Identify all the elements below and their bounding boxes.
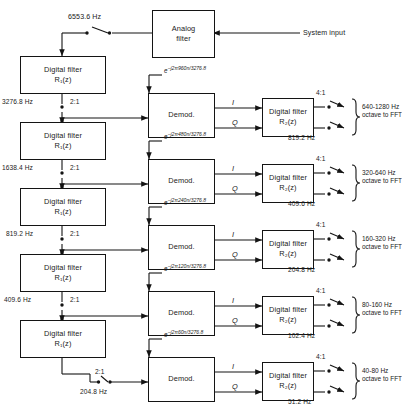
- i-branch-label-stage-4: I: [232, 297, 234, 306]
- analog-filter-line2: filter: [176, 35, 191, 44]
- r2-label-line2: R₂(z): [279, 118, 296, 127]
- r1-label-line1: Digital filter: [44, 66, 82, 75]
- r1-filter-stage-1: Digital filter R₁(z): [20, 56, 106, 94]
- r1-label-line2: R₁(z): [55, 340, 72, 349]
- stage-2-decimation-ratio: 2:1: [70, 164, 79, 172]
- stage-5-output-rate: 51.2 Hz: [288, 398, 311, 406]
- local-oscillator-exponent-stage-3: e−j2π240n/3276.8: [164, 197, 206, 206]
- system-input-label: System input: [303, 29, 345, 37]
- q-branch-label-stage-1: Q: [232, 119, 238, 128]
- r1-filter-stage-2: Digital filter R₁(z): [20, 122, 106, 160]
- stage-5-input-rate: 204.8 Hz: [80, 388, 107, 396]
- stage-1-output-decimation-ratio: 4:1: [316, 89, 325, 97]
- r2-label-line1: Digital filter: [269, 306, 307, 315]
- i-branch-label-stage-1: I: [232, 99, 234, 108]
- i-branch-label-stage-5: I: [232, 363, 234, 372]
- r2-label-line1: Digital filter: [269, 372, 307, 381]
- octave-band-label: 320-640 Hz: [362, 169, 402, 177]
- r2-filter-stage-3: Digital filter R₂(z): [262, 230, 314, 269]
- r1-label-line2: R₁(z): [55, 76, 72, 85]
- r1-filter-stage-3: Digital filter R₁(z): [20, 188, 106, 226]
- octave-band-label: 80-160 Hz: [362, 301, 402, 309]
- octave-band-label: 40-80 Hz: [362, 367, 402, 375]
- top-sample-rate-label: 6553.6 Hz: [68, 13, 101, 21]
- stage-3-decimation-ratio: 2:1: [70, 230, 79, 238]
- demod-label: Demod.: [168, 309, 194, 318]
- q-branch-label-stage-3: Q: [232, 251, 238, 260]
- octave-destination-label: octave to FFT: [362, 309, 402, 317]
- stage-5-output-decimation-ratio: 4:1: [316, 353, 325, 361]
- octave-band-label: 640-1280 Hz: [362, 103, 402, 111]
- local-oscillator-exponent-stage-4: e−j2π120n/3276.8: [164, 263, 206, 272]
- stage-4-decimation-ratio: 2:1: [70, 296, 79, 304]
- r2-label-line2: R₂(z): [279, 184, 296, 193]
- octave-destination-label: octave to FFT: [362, 177, 402, 185]
- stage-2-output-rate: 409.6 Hz: [288, 200, 315, 208]
- octave-destination-label: octave to FFT: [362, 375, 402, 383]
- r1-filter-stage-4: Digital filter R₁(z): [20, 254, 106, 292]
- demod-label: Demod.: [168, 111, 194, 120]
- octave-destination-label: octave to FFT: [362, 111, 402, 119]
- demod-label: Demod.: [168, 375, 194, 384]
- stage-1-input-rate: 3276.8 Hz: [2, 98, 33, 106]
- octave-output-stage-2: 320-640 Hz octave to FFT: [362, 169, 402, 186]
- octave-destination-label: octave to FFT: [362, 243, 402, 251]
- stage-1-decimation-ratio: 2:1: [70, 98, 79, 106]
- octave-output-stage-4: 80-160 Hz octave to FFT: [362, 301, 402, 318]
- octave-output-stage-5: 40-80 Hz octave to FFT: [362, 367, 402, 384]
- r1-label-line2: R₁(z): [55, 274, 72, 283]
- stage-1-output-rate: 819.2 Hz: [288, 134, 315, 142]
- r1-label-line2: R₁(z): [55, 142, 72, 151]
- octave-output-stage-1: 640-1280 Hz octave to FFT: [362, 103, 402, 120]
- stage-2-output-decimation-ratio: 4:1: [316, 155, 325, 163]
- octave-output-stage-3: 160-320 Hz octave to FFT: [362, 235, 402, 252]
- analog-filter-block: Analog filter: [152, 10, 215, 58]
- r2-label-line2: R₂(z): [279, 382, 296, 391]
- i-branch-label-stage-3: I: [232, 231, 234, 240]
- demod-label: Demod.: [168, 243, 194, 252]
- r2-label-line1: Digital filter: [269, 240, 307, 249]
- r2-label-line2: R₂(z): [279, 316, 296, 325]
- stage-4-output-rate: 102.4 Hz: [288, 332, 315, 340]
- q-branch-label-stage-5: Q: [232, 383, 238, 392]
- stage-3-output-rate: 204.8 Hz: [288, 266, 315, 274]
- r1-label-line1: Digital filter: [44, 330, 82, 339]
- stage-3-output-decimation-ratio: 4:1: [316, 221, 325, 229]
- local-oscillator-exponent-stage-2: e−j2π480n/3276.8: [164, 131, 206, 140]
- r1-label-line2: R₁(z): [55, 208, 72, 217]
- r2-filter-stage-5: Digital filter R₂(z): [262, 362, 314, 401]
- r2-filter-stage-4: Digital filter R₂(z): [262, 296, 314, 335]
- r1-label-line1: Digital filter: [44, 198, 82, 207]
- stage-2-input-rate: 1638.4 Hz: [2, 164, 33, 172]
- demodulator-stage-5: Demod.: [148, 357, 215, 402]
- stage-4-input-rate: 409.6 Hz: [4, 296, 31, 304]
- stage-4-output-decimation-ratio: 4:1: [316, 287, 325, 295]
- stage-5-decimation-ratio: 2:1: [95, 368, 104, 376]
- i-branch-label-stage-2: I: [232, 165, 234, 174]
- r2-label-line1: Digital filter: [269, 174, 307, 183]
- local-oscillator-exponent-stage-1: e−j2π960n/3276.8: [164, 65, 206, 74]
- r2-label-line2: R₂(z): [279, 250, 296, 259]
- r2-filter-stage-2: Digital filter R₂(z): [262, 164, 314, 203]
- stage-3-input-rate: 819.2 Hz: [6, 230, 33, 238]
- r1-label-line1: Digital filter: [44, 264, 82, 273]
- r1-label-line1: Digital filter: [44, 132, 82, 141]
- local-oscillator-exponent-stage-5: e−j2π60n/3276.8: [164, 329, 203, 338]
- r2-label-line1: Digital filter: [269, 108, 307, 117]
- demod-label: Demod.: [168, 177, 194, 186]
- q-branch-label-stage-4: Q: [232, 317, 238, 326]
- r2-filter-stage-1: Digital filter R₂(z): [262, 98, 314, 137]
- octave-band-label: 160-320 Hz: [362, 235, 402, 243]
- analog-filter-line1: Analog: [172, 25, 196, 34]
- q-branch-label-stage-2: Q: [232, 185, 238, 194]
- r1-filter-stage-5: Digital filter R₁(z): [20, 320, 106, 358]
